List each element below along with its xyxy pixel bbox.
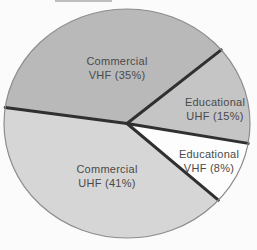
pie-svg (0, 0, 257, 250)
pie-chart-figure: Commercial VHF (35%) Educational UHF (15… (0, 0, 257, 250)
